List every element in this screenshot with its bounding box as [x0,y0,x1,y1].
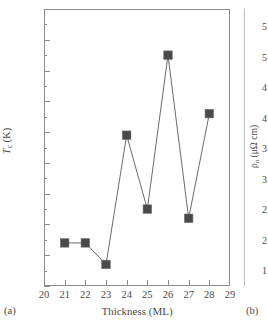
y-tick-label-b: 2 [255,236,267,246]
y-axis-label-a-subscript: c [5,145,14,148]
y-tick-label-b: 5 [255,53,267,63]
data-series-a: 21 ML, 5.74 K22 ML, 5.74 K23 ML, 5.67 K2… [44,9,230,286]
y-axis-label-a: Tc (K) [1,109,15,173]
panel-b-caption: (b) [246,305,258,317]
y-tick-label-b: 2 [255,205,267,215]
y-tick-label-b: 1 [255,266,267,276]
x-tick-label: 29 [218,289,242,300]
y-axis-label-a-symbol: T [1,148,12,154]
y-axis-label-a-unit: (K) [1,128,12,145]
panel-a: 6.56.46.36.26.16.05.95.85.75.6 202122232… [0,0,240,324]
data-point-marker: 26 ML, 6.35 K [164,51,173,60]
panel-b: ρn (μΩ cm) 554433221 [240,0,268,324]
y-axis-label-b-subscript: n [253,160,261,164]
y-tick-label-b: 4 [255,114,267,124]
data-point-marker: 27 ML, 5.82 K [184,214,193,223]
y-tick-label-b: 3 [255,144,267,154]
y-tick-label-b: 4 [255,83,267,93]
data-point-marker: 28 ML, 6.16 K [205,109,214,118]
data-point-marker: 24 ML, 6.09 K [122,131,131,140]
data-point-marker: 22 ML, 5.74 K [81,239,90,248]
series-line-a [65,55,210,264]
data-point-marker: 25 ML, 5.85 K [143,205,152,214]
figure-root: 6.56.46.36.26.16.05.95.85.75.6 202122232… [0,0,268,324]
series-polyline [65,55,210,264]
y-axis-label-b-symbol: ρ [249,163,259,168]
series-markers-a: 21 ML, 5.74 K22 ML, 5.74 K23 ML, 5.67 K2… [60,51,213,269]
y-tick-label-b: 3 [255,175,267,185]
y-axis-label-b-unit: (μΩ cm) [249,125,259,160]
panel-a-caption: (a) [4,305,16,317]
data-point-marker: 21 ML, 5.74 K [60,239,69,248]
y-tick-major [44,286,50,287]
plot-frame-b-edge [244,9,245,286]
data-point-marker: 23 ML, 5.67 K [102,260,111,269]
y-tick-label-b: 5 [255,22,267,32]
x-axis-label-a: Thickness (ML) [44,305,230,317]
